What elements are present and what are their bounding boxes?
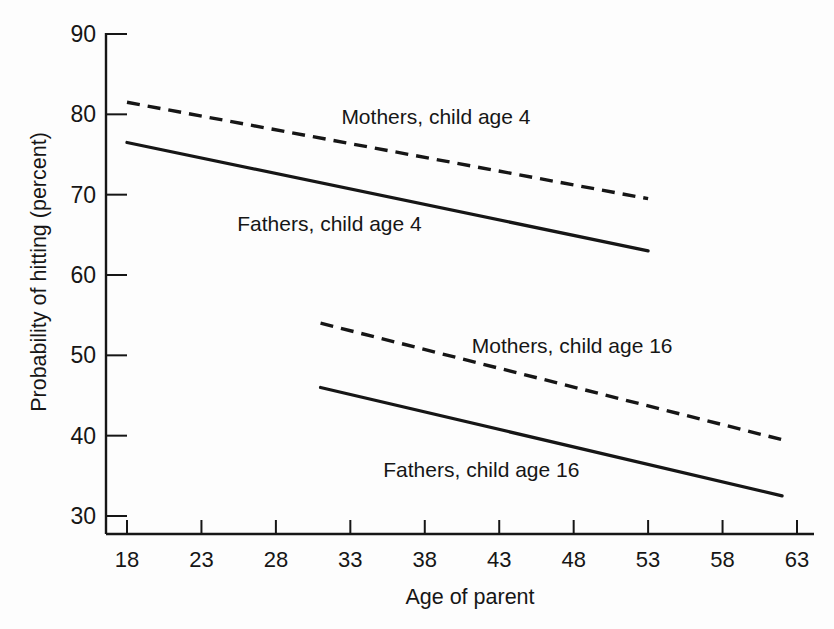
x-tick-label-63: 63 <box>785 547 809 572</box>
scanned-figure-page: 3040506070809018232833384348535863Mother… <box>0 0 834 629</box>
y-tick-label-80: 80 <box>70 101 96 127</box>
x-tick-label-53: 53 <box>636 547 660 572</box>
series-label-fathers-child-age-4: Fathers, child age 4 <box>237 212 422 235</box>
x-tick-label-38: 38 <box>413 547 437 572</box>
x-axis-title: Age of parent <box>405 585 534 609</box>
x-tick-label-43: 43 <box>487 547 511 572</box>
x-tick-label-33: 33 <box>338 547 362 572</box>
parent-hitting-probability-line-chart: 3040506070809018232833384348535863Mother… <box>0 0 834 629</box>
y-tick-label-70: 70 <box>70 182 96 208</box>
chart-generated-content: 3040506070809018232833384348535863Mother… <box>70 21 814 572</box>
x-tick-label-58: 58 <box>710 547 734 572</box>
x-tick-label-18: 18 <box>115 547 139 572</box>
x-tick-label-48: 48 <box>561 547 585 572</box>
x-tick-label-23: 23 <box>189 547 213 572</box>
x-tick-label-28: 28 <box>264 547 288 572</box>
y-tick-label-90: 90 <box>70 21 96 47</box>
y-tick-label-40: 40 <box>70 423 96 449</box>
series-label-mothers-child-age-4: Mothers, child age 4 <box>341 105 530 128</box>
series-label-fathers-child-age-16: Fathers, child age 16 <box>383 458 579 481</box>
y-tick-label-30: 30 <box>70 503 96 529</box>
y-tick-label-60: 60 <box>70 262 96 288</box>
y-axis-title: Probability of hitting (percent) <box>27 132 51 412</box>
y-tick-label-50: 50 <box>70 342 96 368</box>
series-label-mothers-child-age-16: Mothers, child age 16 <box>472 334 673 357</box>
